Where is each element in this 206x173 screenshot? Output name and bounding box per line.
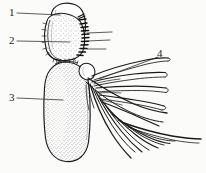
hair-setae-lower-fan — [86, 82, 201, 158]
anatomical-figure: 1 2 3 4 — [0, 0, 206, 173]
label-1: 1 — [9, 7, 15, 18]
articulation-knob — [79, 63, 95, 80]
line-drawing-canvas — [0, 0, 206, 173]
label-2: 2 — [9, 35, 15, 46]
label-4: 4 — [157, 48, 163, 59]
leader-line-4 — [99, 57, 158, 79]
leader-line-setae-b — [87, 40, 110, 41]
label-3: 3 — [9, 92, 15, 103]
part-2-stippled-middle-segment — [42, 12, 89, 64]
leader-line-setae-a — [87, 32, 112, 33]
